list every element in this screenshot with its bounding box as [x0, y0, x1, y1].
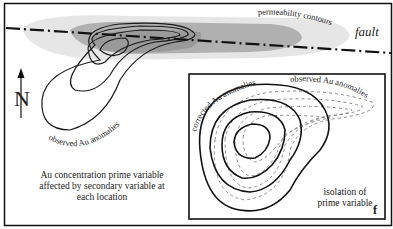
north-label: N — [14, 86, 30, 111]
description-line: Au concentration prime variable — [22, 170, 182, 181]
diagram-figure: N fault permeability contours observed A… — [0, 0, 393, 229]
fault-label: fault — [355, 24, 379, 39]
permeability-contours — [22, 15, 350, 60]
isolation-text: isolation of prime variable — [305, 187, 385, 209]
description-text: Au concentration prime variable affected… — [22, 170, 182, 203]
isolation-line: isolation of — [305, 187, 385, 198]
isolation-line: prime variable — [305, 198, 385, 209]
description-line: affected by secondary variable at — [22, 181, 182, 192]
description-line: each location — [22, 192, 182, 203]
